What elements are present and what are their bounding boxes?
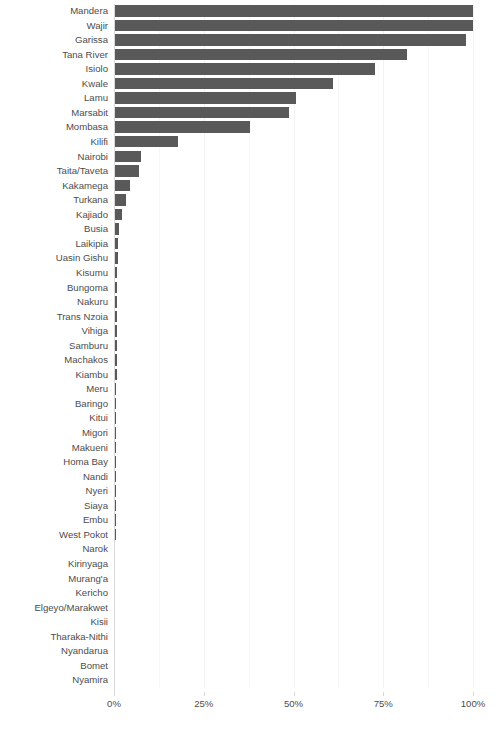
y-axis-tick-label: Mandera [0,4,108,19]
y-axis-tick-label: Nyamira [0,673,108,688]
bar-row [114,441,473,456]
y-axis-tick-label: Migori [0,426,108,441]
x-axis-tick-label: 75% [374,698,393,709]
y-axis-tick-label: Kwale [0,77,108,92]
y-axis-tick-label: Busia [0,222,108,237]
bar-row [114,659,473,674]
y-axis-tick-label: Marsabit [0,106,108,121]
bar-row [114,572,473,587]
y-axis-tick-label: Kilifi [0,135,108,150]
y-axis-tick-label: Turkana [0,193,108,208]
bar-row [114,208,473,223]
bar-row [114,557,473,572]
bar-series [114,4,473,688]
bar-row [114,295,473,310]
y-axis-tick-label: Nandi [0,470,108,485]
y-axis-tick-label: Machakos [0,353,108,368]
y-axis-tick-label: Samburu [0,339,108,354]
x-axis-tick-label: 0% [107,698,121,709]
bar-row [114,382,473,397]
y-axis-tick-label: Kericho [0,586,108,601]
bar-row [114,324,473,339]
y-axis-tick-label: Makueni [0,441,108,456]
bar [114,5,473,17]
y-axis-tick-label: Kakamega [0,179,108,194]
y-axis-tick-label: Nairobi [0,150,108,165]
bar [114,136,178,148]
bar-row [114,266,473,281]
y-axis-tick-label: Kitui [0,411,108,426]
bar-row [114,368,473,383]
y-axis-tick-label: Embu [0,513,108,528]
bar-row [114,251,473,266]
bar-row [114,281,473,296]
y-axis-tick-label: Lamu [0,91,108,106]
bar-row [114,615,473,630]
bar-row [114,470,473,485]
y-axis-tick-label: Meru [0,382,108,397]
bar-row [114,150,473,165]
bar-row [114,426,473,441]
bar-row [114,528,473,543]
bar-row [114,601,473,616]
bar-row [114,19,473,34]
bar-chart: ManderaWajirGarissaTana RiverIsioloKwale… [0,0,504,738]
y-axis-tick-label: Garissa [0,33,108,48]
bar [114,63,375,75]
y-axis-tick-label: Laikipia [0,237,108,252]
y-axis-tick-label: Kirinyaga [0,557,108,572]
bar-row [114,499,473,514]
bar-row [114,644,473,659]
y-axis-tick-label: Mombasa [0,120,108,135]
bar-row [114,484,473,499]
x-axis-tick [204,692,205,696]
y-axis-tick-label: Homa Bay [0,455,108,470]
bar-row [114,222,473,237]
x-axis-tick [473,692,474,696]
y-axis-tick-label: West Pokot [0,528,108,543]
y-axis-tick-label: Nyeri [0,484,108,499]
y-axis-tick-label: Elgeyo/Marakwet [0,601,108,616]
bar [114,107,289,119]
x-axis-tick [383,692,384,696]
bar [114,121,250,133]
bar-row [114,673,473,688]
bar [114,78,333,90]
y-axis-tick-label: Bomet [0,659,108,674]
bar-row [114,353,473,368]
bar-row [114,179,473,194]
x-axis-labels: 0%25%50%75%100% [114,698,473,718]
y-axis-labels: ManderaWajirGarissaTana RiverIsioloKwale… [0,4,108,688]
bar-row [114,106,473,121]
bar-row [114,397,473,412]
bar-row [114,411,473,426]
y-axis-line [114,4,115,696]
y-axis-tick-label: Kisii [0,615,108,630]
y-axis-tick-label: Narok [0,542,108,557]
bar-row [114,455,473,470]
y-axis-tick-label: Vihiga [0,324,108,339]
bar-row [114,310,473,325]
y-axis-tick-label: Kajiado [0,208,108,223]
bar-row [114,77,473,92]
y-axis-tick-label: Nyandarua [0,644,108,659]
y-axis-tick-label: Isiolo [0,62,108,77]
gridline [473,4,474,688]
bar-row [114,62,473,77]
bar-row [114,542,473,557]
bar [114,180,130,192]
y-axis-tick-label: Nakuru [0,295,108,310]
bar [114,92,296,104]
bar [114,209,122,221]
bar [114,151,141,163]
x-axis-tick [114,692,115,696]
bar-row [114,91,473,106]
bar [114,165,139,177]
bar-row [114,237,473,252]
y-axis-tick-label: Uasin Gishu [0,251,108,266]
y-axis-tick-label: Trans Nzoia [0,310,108,325]
y-axis-tick-label: Kisumu [0,266,108,281]
bar [114,20,473,32]
bar-row [114,135,473,150]
y-axis-tick-label: Wajir [0,19,108,34]
